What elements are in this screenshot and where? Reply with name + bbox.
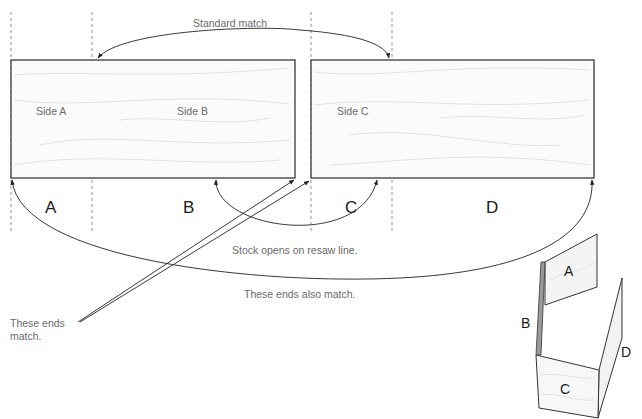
board-right	[311, 60, 594, 178]
segment-letter-c: C	[345, 198, 357, 217]
ends-match-label-line1: These ends	[10, 317, 65, 329]
box-panel-d	[598, 278, 622, 418]
box-label-b: B	[521, 315, 530, 331]
ends-also-match-arrow	[12, 180, 592, 279]
resaw-label: Stock opens on resaw line.	[232, 244, 358, 256]
segment-letter-a: A	[45, 198, 57, 217]
board-left	[11, 60, 295, 178]
side-b-label: Side B	[177, 105, 208, 117]
segment-letter-d: D	[486, 198, 498, 217]
box-label-a: A	[564, 263, 574, 279]
box-label-d: D	[621, 344, 631, 360]
folded-box-illustration	[536, 234, 622, 418]
standard-match-label: Standard match	[193, 17, 267, 29]
side-a-label: Side A	[36, 105, 66, 117]
box-label-c: C	[560, 381, 570, 397]
resaw-match-diagram: Side A Side B Side C Standard match A B …	[0, 0, 642, 419]
box-panel-b	[536, 262, 545, 355]
ends-also-match-label: These ends also match.	[244, 288, 355, 300]
standard-match-arrow	[98, 28, 389, 58]
ends-match-label-line2: match.	[10, 330, 42, 342]
segment-letter-b: B	[183, 198, 194, 217]
side-c-label: Side C	[337, 105, 369, 117]
